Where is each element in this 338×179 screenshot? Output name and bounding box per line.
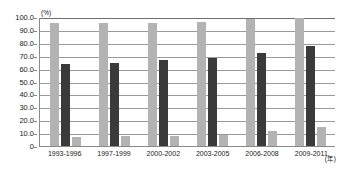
y-axis-tick-label: 80.0	[19, 40, 34, 48]
bar	[246, 19, 255, 146]
bar	[72, 137, 81, 146]
y-axis-tick	[34, 121, 37, 122]
x-axis-tick-label: 2000-2002	[139, 150, 188, 157]
bar-group	[188, 18, 237, 146]
y-axis-tick-label: 60.0	[19, 66, 34, 74]
y-axis-tick	[34, 18, 37, 19]
y-axis-tick-label: 100.0	[15, 14, 34, 22]
bar-groups	[41, 18, 335, 146]
bar-chart: (%) 100.090.080.070.060.050.040.030.020.…	[0, 0, 338, 179]
bar	[306, 46, 315, 146]
bar-group	[139, 18, 188, 146]
x-axis-unit-label: (年)	[325, 153, 336, 163]
y-axis-tick-label: 90.0	[19, 27, 34, 35]
bar	[208, 58, 217, 146]
bar	[257, 53, 266, 146]
bar	[50, 23, 59, 146]
y-axis-tick	[34, 44, 37, 45]
bar	[121, 136, 130, 146]
y-axis-unit-label: (%)	[41, 9, 51, 16]
y-axis-tick	[34, 134, 37, 135]
bar	[317, 127, 326, 146]
y-axis-tick	[34, 57, 37, 58]
y-axis-tick	[34, 31, 37, 32]
bar-group	[90, 18, 139, 146]
bar	[197, 22, 206, 146]
bar	[99, 23, 108, 146]
y-axis-tick-label: 30.0	[19, 104, 34, 112]
bar-group	[41, 18, 90, 146]
bar	[148, 23, 157, 146]
bar	[219, 135, 228, 146]
plot-area	[39, 18, 335, 147]
y-axis-tick-label: 50.0	[19, 79, 34, 87]
bar	[61, 64, 70, 146]
x-axis-tick-label: 2006-2008	[237, 150, 286, 157]
y-axis-tick-label: 70.0	[19, 53, 34, 61]
x-axis-tick-label: 1993-1996	[40, 150, 89, 157]
y-axis-tick	[34, 70, 37, 71]
bar	[268, 131, 277, 146]
y-axis-tick	[34, 83, 37, 84]
y-axis-tick-labels: 100.090.080.070.060.050.040.030.020.010.…	[0, 18, 37, 147]
bar	[170, 136, 179, 146]
x-axis-tick-label: 2003-2005	[188, 150, 237, 157]
y-axis-tick-label: 20.0	[19, 117, 34, 125]
y-axis-tick-label: 40.0	[19, 91, 34, 99]
y-axis-tick	[34, 95, 37, 96]
bar-group	[237, 18, 286, 146]
bar	[295, 18, 304, 146]
y-axis-tick	[34, 108, 37, 109]
bar	[159, 60, 168, 146]
x-axis-tick-label: 1997-1999	[89, 150, 138, 157]
bar	[110, 63, 119, 146]
bar-group	[286, 18, 335, 146]
y-axis-tick	[34, 147, 37, 148]
y-axis-tick-label: 10.0	[19, 130, 34, 138]
x-axis-tick-labels: 1993-19961997-19992000-20022003-20052006…	[40, 150, 336, 157]
